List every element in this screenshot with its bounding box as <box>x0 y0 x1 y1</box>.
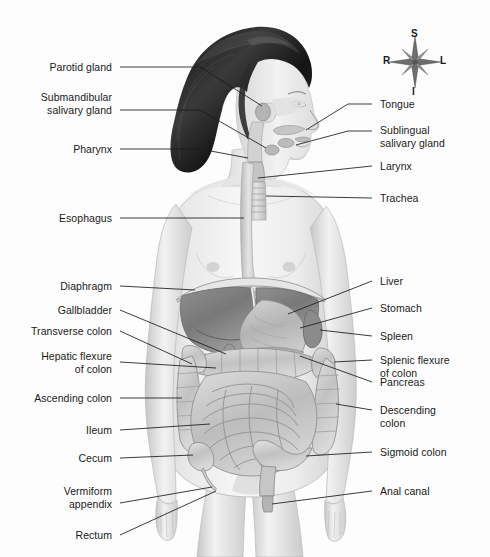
label-sigmoid-colon: Sigmoid colon <box>380 446 490 459</box>
label-cecum: Cecum <box>0 452 112 465</box>
label-larynx: Larynx <box>380 160 490 173</box>
label-liver: Liver <box>380 275 490 288</box>
anal-canal-organ <box>262 496 273 512</box>
label-sublingual-salivary-gland: Sublingual salivary gland <box>380 124 490 149</box>
compass-label-left: L <box>440 55 446 66</box>
orientation-compass-rose <box>389 36 441 88</box>
rectum-organ <box>260 466 276 496</box>
label-ileum: Ileum <box>0 424 112 437</box>
compass-label-right: R <box>383 55 390 66</box>
label-stomach: Stomach <box>380 302 490 315</box>
label-vermiform-appendix: Vermiform appendix <box>0 485 112 510</box>
parotid-gland-organ <box>256 103 271 121</box>
label-parotid-gland: Parotid gland <box>0 61 112 74</box>
label-diaphragm: Diaphragm <box>0 280 112 293</box>
label-submandibular-salivary-gland: Submandibular salivary gland <box>0 91 112 116</box>
label-pharynx: Pharynx <box>0 143 112 156</box>
label-rectum: Rectum <box>0 529 112 542</box>
compass-label-superior: S <box>411 28 418 39</box>
compass-label-inferior: I <box>412 86 415 97</box>
label-pancreas: Pancreas <box>380 376 490 389</box>
label-transverse-colon: Transverse colon <box>0 325 112 338</box>
anatomy-diagram-page: S I R L Parotid gland Submandibular sali… <box>0 0 490 557</box>
label-tongue: Tongue <box>380 98 490 111</box>
label-trachea: Trachea <box>380 192 490 205</box>
label-esophagus: Esophagus <box>0 212 112 225</box>
sublingual-gland-organ <box>278 139 294 148</box>
label-spleen: Spleen <box>380 330 490 343</box>
label-descending-colon: Descending colon <box>380 404 490 429</box>
label-anal-canal: Anal canal <box>380 485 490 498</box>
label-ascending-colon: Ascending colon <box>0 392 112 405</box>
label-gallbladder: Gallbladder <box>0 304 112 317</box>
label-hepatic-flexure-of-colon: Hepatic flexure of colon <box>0 350 112 375</box>
submandibular-gland-organ <box>265 145 279 155</box>
